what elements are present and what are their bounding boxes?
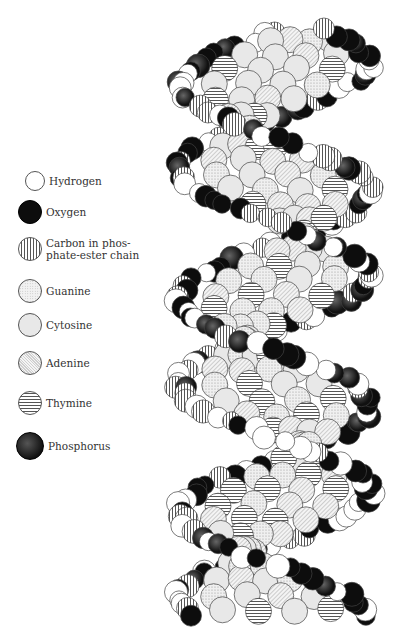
legend-item-oxygen: Oxygen: [18, 200, 86, 224]
phosphorus-swatch-icon: [16, 432, 44, 460]
atom-sphere: [210, 597, 236, 623]
legend-label: Thymine: [46, 397, 92, 409]
atom-legend: Hydrogen Oxygen Carbon in phos- phate-es…: [0, 0, 150, 632]
legend-item-cytosine: Cytosine: [18, 313, 92, 337]
legend-label: Carbon in phos- phate-ester chain: [46, 237, 139, 261]
atom-sphere: [241, 204, 260, 223]
oxygen-swatch-icon: [18, 200, 42, 224]
legend-label: Adenine: [46, 357, 90, 369]
atom-sphere: [263, 338, 284, 359]
atom-sphere: [304, 72, 330, 98]
atom-sphere: [246, 598, 272, 624]
legend-label: Guanine: [46, 285, 91, 297]
atom-sphere: [309, 283, 335, 309]
guanine-swatch-icon: [18, 279, 42, 303]
legend-item-hydrogen: Hydrogen: [23, 171, 102, 191]
atom-sphere: [247, 549, 265, 567]
atom-sphere: [324, 238, 343, 257]
atom-sphere: [271, 212, 292, 233]
atom-sphere: [281, 86, 307, 112]
atom-sphere: [213, 195, 231, 213]
hydrogen-swatch-icon: [25, 171, 45, 191]
legend-item-adenine: Adenine: [18, 351, 90, 375]
atom-sphere: [253, 426, 276, 449]
legend-item-carbon: Carbon in phos- phate-ester chain: [18, 237, 139, 261]
thymine-swatch-icon: [18, 391, 42, 415]
atom-sphere: [313, 18, 334, 39]
cytosine-swatch-icon: [18, 313, 42, 337]
atom-sphere: [269, 127, 289, 147]
atom-sphere: [276, 432, 295, 451]
legend-item-phosphorus: Phosphorus: [16, 432, 111, 460]
atom-sphere: [282, 598, 308, 624]
legend-label: Oxygen: [46, 206, 86, 218]
atom-sphere: [316, 360, 336, 380]
legend-item-thymine: Thymine: [18, 391, 92, 415]
carbon-swatch-icon: [18, 237, 42, 261]
atom-sphere: [266, 554, 290, 578]
adenine-swatch-icon: [18, 351, 42, 375]
atom-sphere: [223, 112, 247, 136]
atom-sphere: [287, 297, 313, 323]
dna-helix-model: [145, 10, 406, 632]
legend-item-guanine: Guanine: [18, 279, 91, 303]
atom-sphere: [293, 507, 319, 533]
legend-label: Hydrogen: [49, 175, 102, 187]
legend-label: Cytosine: [46, 319, 92, 331]
atom-sphere: [181, 605, 202, 626]
legend-label: Phosphorus: [48, 440, 111, 452]
atom-sphere: [229, 416, 247, 434]
